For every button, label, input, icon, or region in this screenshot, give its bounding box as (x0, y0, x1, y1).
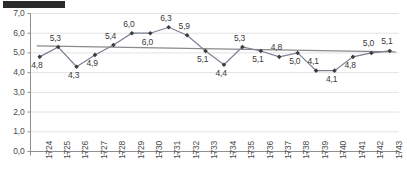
trendline (37, 46, 396, 52)
chart-container: 0,01,02,03,04,05,06,07,0 172417251726172… (0, 0, 407, 194)
x-axis-tick-label: 1734 (228, 140, 238, 158)
x-axis-tick-label: 1728 (117, 140, 127, 158)
data-value-label: 5,1 (381, 36, 392, 46)
data-point-marker (148, 31, 153, 36)
x-axis-tick-label: 1730 (154, 140, 164, 158)
x-axis-tick-label: 1738 (301, 140, 311, 158)
data-value-label: 4,9 (86, 58, 97, 68)
data-value-label: 5,1 (252, 54, 263, 64)
data-value-label: 5,4 (105, 31, 116, 41)
y-axis-tick-label: 0,0 (3, 146, 25, 156)
x-axis-tick-label: 1725 (62, 140, 72, 158)
y-axis-tick-label: 2,0 (3, 107, 25, 117)
data-value-label: 5,3 (50, 33, 61, 43)
data-value-label: 6,0 (123, 19, 134, 29)
data-value-label: 4,8 (271, 42, 282, 52)
y-axis-tick-label: 1,0 (3, 126, 25, 136)
x-axis-tick-label: 1736 (265, 140, 275, 158)
y-axis-tick-label: 3,0 (3, 87, 25, 97)
x-axis-tick-label: 1735 (246, 140, 256, 158)
data-value-label: 4,3 (68, 70, 79, 80)
y-axis-tick-label: 7,0 (3, 8, 25, 18)
y-axis-tick-label: 6,0 (3, 28, 25, 38)
data-value-label: 5,1 (197, 54, 208, 64)
x-axis-tick-label: 1740 (338, 140, 348, 158)
data-value-label: 4,8 (344, 60, 355, 70)
x-axis-tick-label: 1727 (99, 140, 109, 158)
x-axis-tick-label: 1741 (357, 140, 367, 158)
data-point-marker (277, 55, 282, 60)
data-value-label: 5,0 (363, 38, 374, 48)
x-axis-tick-label: 1724 (44, 140, 54, 158)
data-value-label: 5,9 (179, 21, 190, 31)
chart-plot-area (0, 0, 407, 194)
y-axis-tick-label: 5,0 (3, 47, 25, 57)
data-point-marker (37, 55, 42, 60)
x-axis-tick-label: 1733 (209, 140, 219, 158)
data-value-label: 5,3 (234, 33, 245, 43)
x-axis-tick-label: 1731 (172, 140, 182, 158)
x-axis-tick-label: 1732 (191, 140, 201, 158)
data-value-label: 4,1 (308, 56, 319, 66)
data-value-label: 4,8 (31, 60, 42, 70)
x-axis-tick-label: 1743 (394, 140, 404, 158)
x-axis-tick-label: 1729 (136, 140, 146, 158)
data-point-marker (166, 25, 171, 30)
x-axis-tick-label: 1742 (375, 140, 385, 158)
data-value-label: 6,0 (142, 37, 153, 47)
x-axis-tick-label: 1737 (283, 140, 293, 158)
x-axis-tick-label: 1726 (80, 140, 90, 158)
x-axis-tick-label: 1739 (320, 140, 330, 158)
y-axis-tick-label: 4,0 (3, 67, 25, 77)
data-value-label: 5,0 (289, 56, 300, 66)
data-value-label: 6,3 (160, 13, 171, 23)
data-value-label: 4,4 (215, 68, 226, 78)
data-value-label: 4,1 (326, 74, 337, 84)
